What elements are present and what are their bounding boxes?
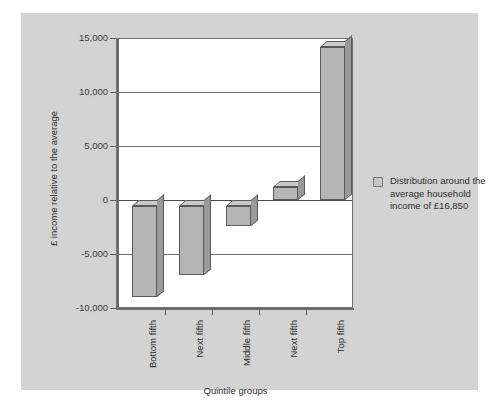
y-tick-label-10000: 10,000 [50, 87, 108, 97]
x-axis-title: Quintile groups [118, 385, 353, 396]
bar-front-face [179, 206, 204, 275]
bar-middle-fifth[interactable] [226, 200, 251, 226]
y-tick-mark-5000 [110, 146, 116, 147]
bar-front-face [132, 206, 157, 297]
bar-next-fifth-2[interactable] [179, 200, 204, 275]
y-tick-label-5000: 5,000 [50, 141, 108, 151]
gridline-5000 [119, 146, 352, 147]
legend-swatch-icon [373, 177, 383, 187]
y-tick-mark-0 [110, 200, 116, 201]
x-tick-label-bottom-fifth: Bottom fifth [147, 320, 158, 368]
x-tick-label-top-fifth: Top fifth [335, 320, 346, 353]
y-tick-label-0: 0 [50, 195, 108, 205]
y-tick-mark-minus5000 [110, 254, 116, 255]
bar-bottom-fifth[interactable] [132, 200, 157, 297]
gridline-10000 [119, 92, 352, 93]
x-tick-label-middle-fifth: Middle fifth [241, 320, 252, 366]
y-tick-label-15000: 15,000 [50, 33, 108, 43]
bar-top-fifth[interactable] [320, 41, 345, 200]
bar-front-face [320, 47, 345, 200]
chart-figure: 15,000 10,000 5,000 0 -5,000 -10,000 Bot… [0, 0, 500, 404]
y-tick-label-minus5000: -5,000 [50, 249, 108, 259]
x-tick-label-next-fifth-4: Next fifth [288, 320, 299, 358]
chart-panel: 15,000 10,000 5,000 0 -5,000 -10,000 Bot… [21, 13, 478, 390]
bar-side-face [204, 194, 211, 275]
bar-next-fifth-4[interactable] [273, 181, 298, 200]
x-tick-mark-1 [165, 309, 166, 315]
y-tick-label-minus10000: -10,000 [50, 303, 108, 313]
y-tick-mark-10000 [110, 92, 116, 93]
bar-front-face [226, 206, 251, 226]
x-tick-mark-3 [259, 309, 260, 315]
bar-side-face [345, 35, 352, 200]
x-tick-mark-2 [212, 309, 213, 315]
y-tick-mark-15000 [110, 38, 116, 39]
x-tick-label-next-fifth-2: Next fifth [194, 320, 205, 358]
y-axis-title: £ income relative to the average [48, 99, 59, 259]
bar-side-face [157, 194, 164, 297]
chart-legend: Distribution around the average househol… [373, 175, 498, 213]
legend-entry-label: Distribution around the average househol… [390, 175, 498, 213]
x-axis-line [116, 308, 354, 310]
y-axis-line [116, 38, 118, 309]
bar-front-face [273, 187, 298, 200]
x-tick-mark-4 [306, 309, 307, 315]
y-tick-mark-minus10000 [110, 308, 116, 309]
